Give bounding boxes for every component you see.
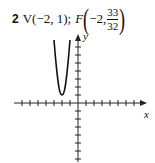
- x-axis-label: x: [144, 108, 149, 120]
- x-axis-arrow-icon: [140, 100, 147, 106]
- y-axis-label: y: [83, 30, 88, 42]
- parabola-curve: [54, 40, 70, 95]
- graph: [0, 0, 155, 163]
- y-axis-arrow-icon: [75, 34, 81, 41]
- x-axis: [14, 100, 147, 106]
